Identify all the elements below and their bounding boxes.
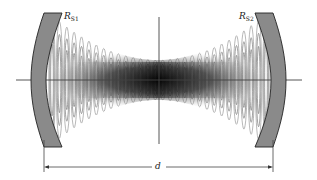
label-distance-d: d xyxy=(155,162,161,171)
arrowhead-left-icon xyxy=(44,165,49,168)
resonator-diagram xyxy=(0,0,317,180)
arrowhead-right-icon xyxy=(268,165,273,168)
label-rs2: RS2 xyxy=(239,12,254,22)
label-rs1: RS1 xyxy=(64,12,79,22)
